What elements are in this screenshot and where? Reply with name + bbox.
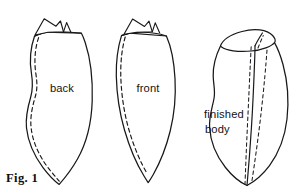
- back-top-flap: [35, 19, 64, 35]
- label-finished-body-line1: finished: [204, 108, 244, 120]
- front-top-flap-right: [152, 23, 159, 33]
- label-front: front: [136, 82, 160, 94]
- figure-container: back front finished body Fig. 1: [0, 0, 300, 191]
- pattern-piece-back: back: [26, 19, 92, 185]
- pattern-piece-finished-body: finished body: [204, 30, 288, 186]
- pattern-piece-front: front: [116, 19, 175, 183]
- front-outline: [116, 33, 175, 182]
- figure-caption: Fig. 1: [6, 171, 38, 185]
- front-top-flap: [124, 19, 152, 34]
- pattern-diagram: back front finished body Fig. 1: [0, 0, 300, 191]
- back-top-flap-right: [64, 23, 72, 33]
- back-outline: [26, 32, 92, 184]
- label-finished-body-line2: body: [205, 123, 230, 135]
- label-back: back: [50, 82, 74, 94]
